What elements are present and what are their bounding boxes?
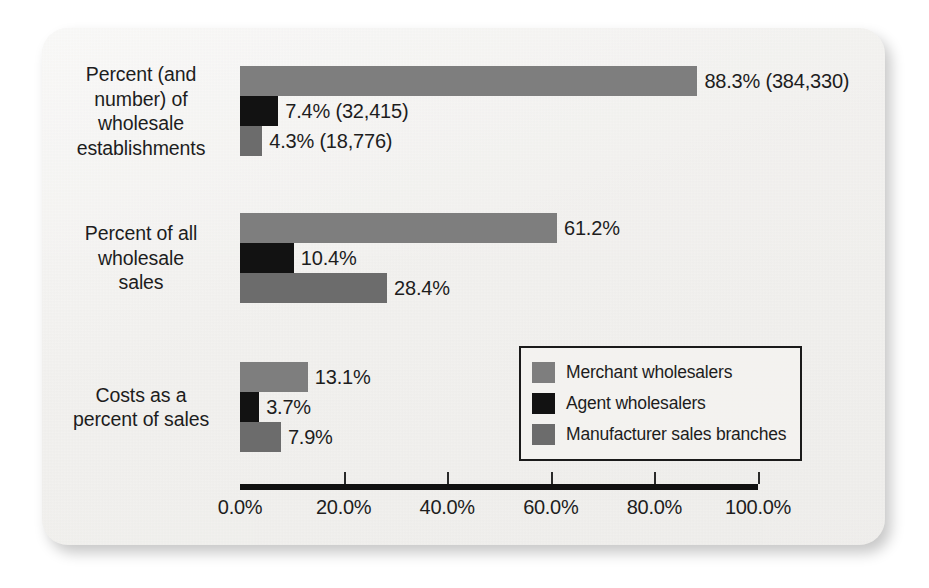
category-label-line: Percent of all xyxy=(46,221,236,246)
x-axis-tick-label: 20.0% xyxy=(316,496,371,519)
bar-value-label: 7.9% xyxy=(288,426,333,449)
bar-row: 88.3% (384,330) xyxy=(240,66,885,96)
bar-1[interactable] xyxy=(240,96,278,126)
chart-plot-area: Percent (andnumber) ofwholesaleestablish… xyxy=(42,28,885,545)
bar-row: 28.4% xyxy=(240,273,885,303)
bar-row: 10.4% xyxy=(240,243,885,273)
bar-0[interactable] xyxy=(240,362,308,392)
bar-2[interactable] xyxy=(240,126,262,156)
x-axis-tick-label: 0.0% xyxy=(218,496,262,519)
x-axis-tick xyxy=(654,472,656,484)
bar-0[interactable] xyxy=(240,66,697,96)
x-axis-tick xyxy=(447,472,449,484)
x-axis-tick-label: 40.0% xyxy=(420,496,475,519)
legend-item[interactable]: Agent wholesalers xyxy=(532,388,786,419)
chart-page: Percent (andnumber) ofwholesaleestablish… xyxy=(0,0,929,588)
x-axis-tick xyxy=(344,472,346,484)
bar-value-label: 13.1% xyxy=(315,366,371,389)
chart-card-surface: Percent (andnumber) ofwholesaleestablish… xyxy=(42,28,885,545)
category-label: Percent (andnumber) ofwholesaleestablish… xyxy=(46,62,236,160)
category-label-line: number) of xyxy=(46,87,236,112)
x-axis-tick-label: 80.0% xyxy=(627,496,682,519)
x-axis-line xyxy=(240,484,758,490)
bar-2[interactable] xyxy=(240,422,281,452)
legend-swatch-icon xyxy=(532,362,555,383)
legend-swatch-icon xyxy=(532,393,555,414)
legend-swatch-icon xyxy=(532,424,555,445)
category-label-line: percent of sales xyxy=(46,407,236,432)
bar-value-label: 4.3% (18,776) xyxy=(269,130,392,153)
legend-label: Agent wholesalers xyxy=(566,393,706,414)
bar-value-label: 61.2% xyxy=(564,217,620,240)
category-label: Costs as apercent of sales xyxy=(46,383,236,432)
x-axis-tick-label: 100.0% xyxy=(725,496,791,519)
category-label-line: wholesale xyxy=(46,111,236,136)
bar-value-label: 28.4% xyxy=(394,277,450,300)
category-label-line: sales xyxy=(46,270,236,295)
bar-1[interactable] xyxy=(240,243,294,273)
category-label-line: Costs as a xyxy=(46,383,236,408)
bar-2[interactable] xyxy=(240,273,387,303)
bar-value-label: 88.3% (384,330) xyxy=(704,70,849,93)
bar-value-label: 7.4% (32,415) xyxy=(285,100,408,123)
category-label: Percent of allwholesalesales xyxy=(46,221,236,295)
x-axis-tick xyxy=(758,472,760,484)
bar-1[interactable] xyxy=(240,392,259,422)
category-label-line: Percent (and xyxy=(46,62,236,87)
bar-row: 4.3% (18,776) xyxy=(240,126,885,156)
bar-row: 7.4% (32,415) xyxy=(240,96,885,126)
category-label-line: establishments xyxy=(46,136,236,161)
category-label-line: wholesale xyxy=(46,246,236,271)
bar-0[interactable] xyxy=(240,213,557,243)
chart-card: Percent (andnumber) ofwholesaleestablish… xyxy=(42,28,885,545)
bar-value-label: 10.4% xyxy=(301,247,357,270)
legend-label: Merchant wholesalers xyxy=(566,362,732,383)
legend-item[interactable]: Manufacturer sales branches xyxy=(532,419,786,450)
x-axis-tick-label: 60.0% xyxy=(523,496,578,519)
legend-item[interactable]: Merchant wholesalers xyxy=(532,357,786,388)
legend-label: Manufacturer sales branches xyxy=(566,424,786,445)
bar-value-label: 3.7% xyxy=(266,396,311,419)
x-axis-tick xyxy=(551,472,553,484)
bar-row: 61.2% xyxy=(240,213,885,243)
chart-legend: Merchant wholesalersAgent wholesalersMan… xyxy=(519,346,802,461)
